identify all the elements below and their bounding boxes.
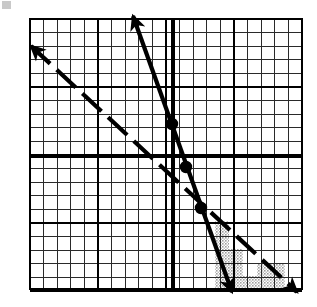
- point-middle: [181, 162, 192, 173]
- point-upper: [167, 119, 178, 130]
- shade-cell-3: [215, 263, 243, 276]
- point-intersection: [196, 203, 207, 214]
- coordinate-graph-figure: [0, 0, 317, 307]
- graph-canvas: [0, 0, 317, 307]
- screenshot-root: [0, 0, 317, 307]
- shade-cell-4: [215, 276, 257, 289]
